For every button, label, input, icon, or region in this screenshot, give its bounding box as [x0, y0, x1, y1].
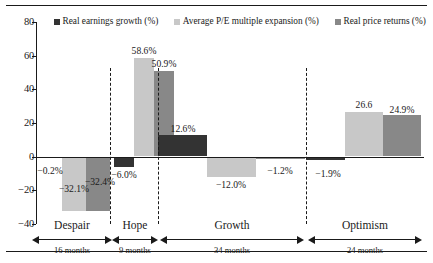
chart-figure: Real earnings growth (%) Average P/E mul… [0, 0, 433, 263]
category-despair: Despair 16 months [32, 219, 112, 259]
y-tick-label: 40 [4, 84, 34, 94]
span-arrow-icon [160, 235, 304, 244]
bar-value-label: 24.9% [378, 105, 426, 115]
y-tick-label: 20 [4, 118, 34, 128]
bar-value-label: −1.2% [256, 166, 304, 176]
category-duration: 9 months [112, 245, 158, 255]
bar-value-label: −1.9% [304, 169, 352, 179]
y-tick-label: 60 [4, 51, 34, 61]
category-growth: Growth 34 months [160, 219, 304, 259]
category-optimism: Optimism 24 months [308, 219, 422, 259]
span-arrow-icon [32, 235, 112, 244]
category-duration: 34 months [160, 245, 304, 255]
bar-value-label: −12.0% [207, 180, 255, 190]
y-tick-label: 0 [4, 152, 34, 162]
group-separator [158, 68, 159, 224]
category-hope: Hope 9 months [112, 219, 158, 259]
zero-baseline [36, 157, 424, 158]
category-label: Hope [112, 219, 158, 232]
y-axis [36, 22, 37, 224]
bar-value-label: 50.9% [140, 59, 188, 69]
bar-value-label: 12.6% [159, 124, 207, 134]
bar-growth-pe-multiple-expansion [207, 157, 256, 177]
bar-hope-pe-multiple-expansion [134, 58, 154, 157]
bar-optimism-real-price-returns [383, 115, 421, 157]
group-separator [110, 68, 111, 224]
category-label: Despair [32, 219, 112, 232]
bar-optimism-pe-multiple-expansion [345, 112, 383, 157]
span-arrow-icon [112, 235, 158, 244]
bar-value-label: 58.6% [120, 46, 168, 56]
y-tick-label: −20 [4, 185, 34, 195]
category-label: Optimism [308, 219, 422, 232]
bar-hope-real-earnings-growth [114, 157, 134, 167]
category-duration: 16 months [32, 245, 112, 255]
group-separator [306, 68, 307, 224]
category-duration: 24 months [308, 245, 422, 255]
y-tick-label: 80 [4, 17, 34, 27]
category-label: Growth [160, 219, 304, 232]
bar-value-label: −6.0% [100, 170, 148, 180]
span-arrow-icon [308, 235, 422, 244]
bar-value-label: −0.2% [26, 166, 74, 176]
bar-growth-real-earnings-growth [158, 135, 207, 156]
y-tick-label: −40 [4, 219, 34, 229]
